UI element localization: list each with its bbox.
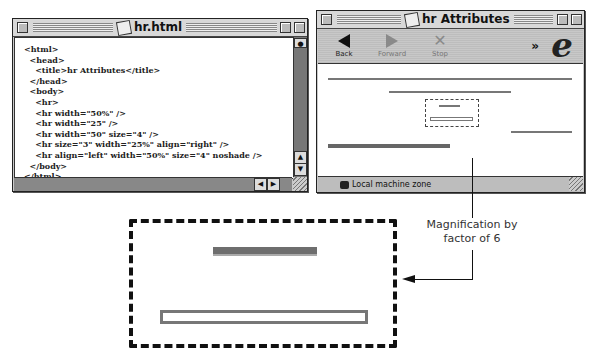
magnified-hr-width-50-size-4	[160, 310, 368, 324]
resize-grip-icon[interactable]	[569, 177, 583, 191]
browser-window-title: hr Attributes	[401, 12, 514, 27]
back-label: Back	[322, 50, 366, 58]
vertical-scrollbar[interactable]: ● ▲ ▼	[293, 37, 307, 177]
arrow-head-icon	[402, 275, 415, 283]
label-line-1: Magnification by	[422, 218, 522, 232]
horizontal-scrollbar[interactable]: ◀ ▶	[14, 177, 292, 191]
browser-content-area	[318, 64, 583, 177]
internet-explorer-logo-icon: e	[547, 31, 577, 61]
forward-label: Forward	[370, 50, 414, 58]
close-box-icon[interactable]	[17, 22, 28, 33]
magnification-label: Magnification by factor of 6	[422, 218, 522, 246]
forward-arrow-icon	[386, 34, 398, 48]
magnified-view-box	[129, 219, 397, 348]
hr-width-50-percent	[389, 91, 511, 93]
magnify-region-outline	[425, 99, 479, 127]
status-bar: Local machine zone	[318, 177, 583, 192]
connector-line-horizontal	[410, 279, 473, 280]
source-window-title: hr.html	[113, 20, 186, 35]
zoom-box-icon[interactable]	[280, 22, 291, 33]
html-document-icon	[404, 11, 420, 27]
source-title-bar[interactable]: hr.html	[13, 19, 307, 37]
back-button[interactable]: Back	[322, 32, 366, 58]
hr-left-50-percent-noshade	[328, 144, 450, 148]
stop-label: Stop	[418, 50, 462, 58]
hr-default	[328, 78, 572, 80]
back-arrow-icon	[338, 34, 350, 48]
magnified-hr-width-25	[213, 247, 317, 256]
hr-right-25-percent	[511, 131, 572, 133]
html-document-icon	[116, 19, 132, 35]
close-box-icon[interactable]	[321, 14, 332, 25]
zone-icon	[340, 181, 349, 189]
source-code-text: <html> <head> <title>hr Attributes</titl…	[15, 38, 293, 179]
scroll-down-arrow-icon[interactable]: ▼	[294, 163, 307, 176]
resize-grip-icon[interactable]	[293, 177, 307, 191]
stop-button[interactable]: ✕ Stop	[418, 32, 462, 58]
hr-width-25	[439, 105, 460, 107]
zone-label: Local machine zone	[352, 180, 431, 189]
browser-title-text: hr Attributes	[422, 12, 510, 27]
more-chevron-icon[interactable]: »	[531, 39, 539, 53]
label-line-2: factor of 6	[422, 232, 522, 246]
source-window: hr.html <html> <head> <title>hr Attribut…	[12, 18, 308, 192]
collapse-box-icon[interactable]	[571, 14, 582, 25]
scroll-right-arrow-icon[interactable]: ▶	[267, 178, 280, 191]
connector-line-bottom	[472, 250, 473, 280]
source-title-text: hr.html	[134, 20, 182, 35]
zoom-box-icon[interactable]	[557, 14, 568, 25]
scroll-thumb-icon[interactable]: ●	[294, 38, 307, 48]
hr-width-50-size-4	[430, 117, 473, 121]
connector-line-top	[472, 158, 473, 218]
scroll-left-arrow-icon[interactable]: ◀	[254, 178, 267, 191]
browser-toolbar: Back Forward ✕ Stop » e	[318, 29, 583, 64]
browser-window: hr Attributes Back Forward ✕ Stop » e Lo…	[316, 10, 585, 193]
stop-x-icon: ✕	[433, 32, 446, 50]
browser-title-bar[interactable]: hr Attributes	[317, 11, 584, 29]
forward-button[interactable]: Forward	[370, 32, 414, 58]
source-code-area[interactable]: <html> <head> <title>hr Attributes</titl…	[14, 37, 294, 179]
collapse-box-icon[interactable]	[294, 22, 305, 33]
